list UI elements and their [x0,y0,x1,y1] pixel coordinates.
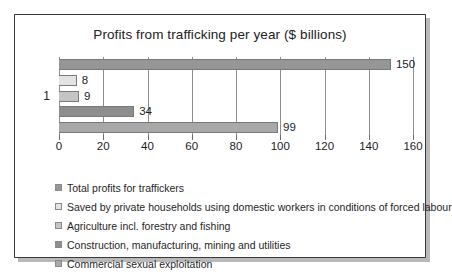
bar-value-label-5: 99 [280,122,296,133]
legend-label-1: Total profits for traffickers [67,182,184,194]
category-axis-label: 1 [29,57,55,135]
legend-item-2[interactable]: Saved by private households using domest… [55,197,425,216]
x-tick-label-80: 80 [230,140,243,152]
legend-swatch-icon-2 [55,203,62,210]
bar-3 [59,91,79,102]
page-title: Profits from trafficking per year ($ bil… [15,27,425,42]
legend-label-5: Commercial sexual exploitation [67,258,212,270]
legend-swatch-icon-4 [55,241,62,248]
legend-swatch-icon-3 [55,222,62,229]
x-tick-label-0: 0 [56,140,62,152]
x-tick-label-20: 20 [97,140,110,152]
x-tick-label-140: 140 [359,140,378,152]
legend-label-2: Saved by private households using domest… [67,201,452,213]
bar-value-label-2: 8 [79,75,88,86]
legend-item-3[interactable]: Agriculture incl. forestry and fishing [55,216,425,235]
x-tick-label-160: 160 [403,140,422,152]
bar-1 [59,59,391,70]
legend-label-3: Agriculture incl. forestry and fishing [67,220,230,232]
plot-canvas: 150893499 [59,57,413,135]
bar-5 [59,122,278,133]
legend-item-1[interactable]: Total profits for traffickers [55,178,425,197]
legend-swatch-icon-5 [55,260,62,267]
x-tick-label-60: 60 [185,140,198,152]
bar-2 [59,75,77,86]
bar-value-label-1: 150 [393,59,415,70]
x-tick-label-100: 100 [271,140,290,152]
x-axis: 020406080100120140160 [59,135,413,157]
chart-frame: Profits from trafficking per year ($ bil… [14,14,426,258]
x-tick-label-40: 40 [141,140,154,152]
bar-4 [59,106,134,117]
legend-label-4: Construction, manufacturing, mining and … [67,239,291,251]
legend-item-5[interactable]: Commercial sexual exploitation [55,254,425,273]
legend-swatch-icon-1 [55,184,62,191]
legend-item-4[interactable]: Construction, manufacturing, mining and … [55,235,425,254]
plot-area: 1 150893499 [29,57,413,135]
bar-value-label-3: 9 [81,91,90,102]
x-tick-label-120: 120 [315,140,334,152]
bar-group: 150893499 [59,57,413,135]
bar-value-label-4: 34 [136,106,152,117]
chart-legend: Total profits for traffickersSaved by pr… [55,178,425,273]
